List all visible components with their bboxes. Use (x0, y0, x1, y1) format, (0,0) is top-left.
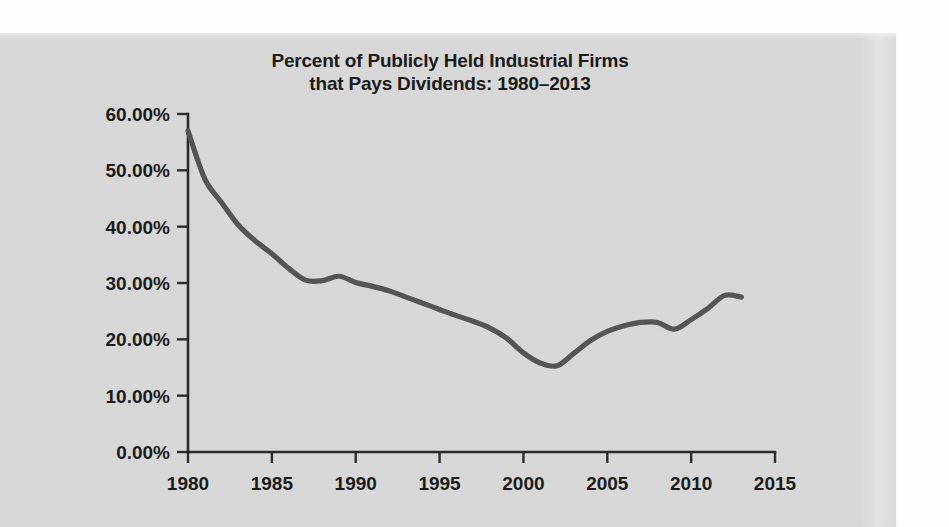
y-axis-tick-label: 60.00% (106, 104, 171, 125)
y-axis-tick-label: 30.00% (106, 273, 171, 294)
line-chart-figure: Percent of Publicly Held Industrial Firm… (0, 33, 896, 527)
scanned-page: Percent of Publicly Held Industrial Firm… (0, 0, 949, 527)
y-axis-tick-marks (177, 114, 188, 452)
x-axis-tick-labels: 19801985199019952000200520102015 (167, 473, 797, 494)
y-axis-tick-label: 50.00% (106, 160, 171, 181)
x-axis-tick-label: 2000 (502, 473, 544, 494)
chart-plot-area: 0.00%10.00%20.00%30.00%40.00%50.00%60.00… (0, 33, 896, 527)
x-axis-tick-label: 1980 (167, 473, 209, 494)
y-axis-tick-labels: 0.00%10.00%20.00%30.00%40.00%50.00%60.00… (106, 104, 171, 463)
x-axis-tick-marks (188, 452, 775, 463)
x-axis-tick-label: 2005 (586, 473, 629, 494)
y-axis-tick-label: 20.00% (106, 329, 171, 350)
dividend-percent-series-line (188, 131, 741, 366)
x-axis-tick-label: 2010 (670, 473, 712, 494)
y-axis-tick-label: 10.00% (106, 386, 171, 407)
x-axis-tick-label: 2015 (754, 473, 797, 494)
y-axis-tick-label: 0.00% (116, 442, 170, 463)
y-axis-tick-label: 40.00% (106, 217, 171, 238)
x-axis-tick-label: 1995 (418, 473, 461, 494)
x-axis-tick-label: 1990 (335, 473, 377, 494)
x-axis-tick-label: 1985 (251, 473, 294, 494)
